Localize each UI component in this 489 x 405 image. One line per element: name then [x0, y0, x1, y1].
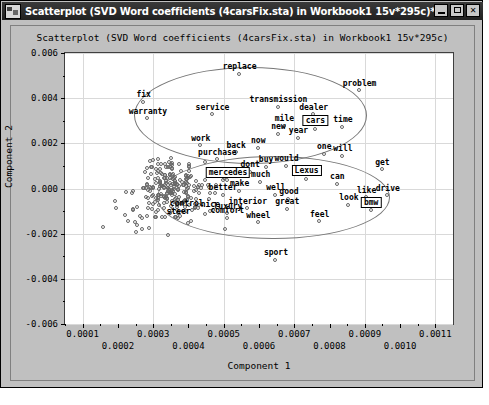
cloud-point: [160, 215, 164, 219]
y-gridline: [65, 53, 453, 54]
x-axis-title: Component 1: [64, 360, 454, 371]
word-label[interactable]: steer: [167, 207, 191, 216]
word-label[interactable]: sport: [264, 248, 288, 257]
x-minor-tick: [347, 324, 348, 326]
y-tick: [61, 53, 65, 54]
minimize-button[interactable]: [434, 4, 448, 17]
x-tick-label: 0.0010: [384, 341, 417, 351]
cloud-point: [146, 206, 150, 210]
y-tick-label: 0.000: [31, 184, 58, 194]
cloud-point: [159, 162, 163, 166]
word-label[interactable]: Lexus: [292, 165, 322, 176]
y-tick-label: 0.006: [31, 48, 58, 58]
plot-canvas[interactable]: 0.0060.0040.0020.000-0.002-0.004-0.0060.…: [64, 52, 454, 325]
word-label[interactable]: can: [330, 172, 344, 181]
cloud-point: [163, 173, 167, 177]
cloud-point: [194, 188, 198, 192]
word-point: [380, 167, 384, 171]
word-label[interactable]: much: [251, 170, 270, 179]
word-label[interactable]: good: [279, 187, 298, 196]
cloud-point: [140, 227, 144, 231]
word-point: [296, 136, 300, 140]
cloud-point: [184, 173, 188, 177]
word-label[interactable]: look: [339, 193, 358, 202]
word-label[interactable]: new: [271, 122, 285, 131]
y-tick: [61, 189, 65, 190]
word-label[interactable]: better: [209, 183, 238, 192]
word-label[interactable]: like: [357, 186, 376, 195]
y-axis-title: Component 2: [3, 125, 14, 188]
x-gridline: [83, 53, 84, 324]
y-minor-tick: [63, 301, 65, 302]
word-label[interactable]: mercedes: [206, 167, 251, 178]
x-tick-label: 0.0008: [313, 341, 346, 351]
y-tick: [61, 143, 65, 144]
x-minor-tick: [188, 324, 189, 326]
word-point: [221, 193, 225, 197]
word-label[interactable]: will: [333, 144, 352, 153]
close-button[interactable]: ✕: [466, 4, 480, 17]
cloud-point: [124, 190, 128, 194]
word-label[interactable]: would: [274, 154, 298, 163]
y-minor-tick: [63, 166, 65, 167]
x-minor-tick: [153, 324, 154, 326]
cluster-ellipse: [134, 67, 367, 164]
word-point: [276, 105, 280, 109]
x-minor-tick: [418, 324, 419, 326]
x-gridline: [435, 53, 436, 324]
x-minor-tick: [277, 324, 278, 326]
cloud-point: [131, 208, 135, 212]
word-label[interactable]: get: [375, 158, 389, 167]
word-label[interactable]: replace: [223, 62, 257, 71]
word-point: [304, 177, 308, 181]
x-minor-tick: [312, 324, 313, 326]
cloud-point: [151, 185, 155, 189]
window-titlebar[interactable]: Scatterplot (SVD Word coefficients (4car…: [2, 2, 483, 20]
word-label[interactable]: comfort: [210, 206, 244, 215]
cloud-point: [187, 162, 191, 166]
word-point: [322, 152, 326, 156]
word-label[interactable]: wheel: [246, 211, 270, 220]
x-tick-label: 0.0002: [102, 341, 135, 351]
word-label[interactable]: fix: [136, 90, 150, 99]
word-label[interactable]: purchase: [198, 148, 237, 157]
word-label[interactable]: feel: [310, 210, 329, 219]
word-label[interactable]: now: [251, 136, 265, 145]
y-tick-label: -0.004: [25, 274, 58, 284]
word-label[interactable]: drive: [376, 184, 400, 193]
word-point: [369, 208, 373, 212]
word-label[interactable]: dealer: [299, 103, 328, 112]
word-label[interactable]: warranty: [129, 107, 168, 116]
close-icon: ✕: [467, 5, 479, 16]
cloud-point: [170, 166, 174, 170]
cloud-point: [169, 189, 173, 193]
cloud-point: [156, 157, 160, 161]
cloud-point: [155, 171, 159, 175]
word-point: [237, 72, 241, 76]
maximize-button[interactable]: [450, 4, 464, 17]
word-label[interactable]: one: [317, 142, 331, 151]
word-label[interactable]: buy: [259, 155, 273, 164]
word-label[interactable]: work: [191, 134, 210, 143]
y-tick-label: -0.006: [25, 319, 58, 329]
word-point: [276, 132, 280, 136]
word-label[interactable]: cars: [303, 115, 328, 126]
cloud-point: [123, 213, 127, 217]
plot-container: Scatterplot (SVD Word coefficients (4car…: [10, 25, 475, 381]
word-point: [141, 100, 145, 104]
word-point: [273, 258, 277, 262]
word-label[interactable]: bmw: [361, 197, 381, 208]
word-label[interactable]: time: [333, 115, 352, 124]
cloud-point: [187, 169, 191, 173]
cloud-point: [167, 160, 171, 164]
x-minor-tick: [382, 324, 383, 326]
word-label[interactable]: problem: [343, 79, 377, 88]
word-label[interactable]: service: [196, 103, 230, 112]
cloud-point: [135, 205, 139, 209]
x-minor-tick: [241, 324, 242, 326]
cloud-point: [177, 162, 181, 166]
word-label[interactable]: great: [275, 197, 299, 206]
x-tick-label: 0.0005: [207, 329, 240, 339]
word-point: [313, 127, 317, 131]
word-label[interactable]: year: [289, 126, 308, 135]
